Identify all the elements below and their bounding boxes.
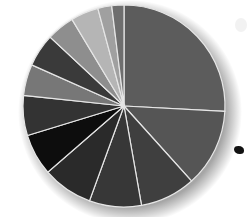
pie-slices — [23, 5, 225, 207]
pie-slice-1 — [124, 5, 225, 111]
pie-chart — [0, 0, 247, 217]
ink-blot — [234, 146, 244, 154]
background-smudge — [235, 18, 247, 32]
